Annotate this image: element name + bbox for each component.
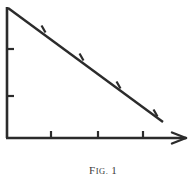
caption-prefix-letter: F bbox=[89, 164, 96, 176]
caption-number: 1 bbox=[111, 164, 117, 176]
figure-caption: FIG.1 bbox=[0, 152, 193, 180]
figure-container: FIG.1 bbox=[0, 0, 193, 180]
caption-prefix-smallcaps: IG. bbox=[96, 166, 109, 176]
